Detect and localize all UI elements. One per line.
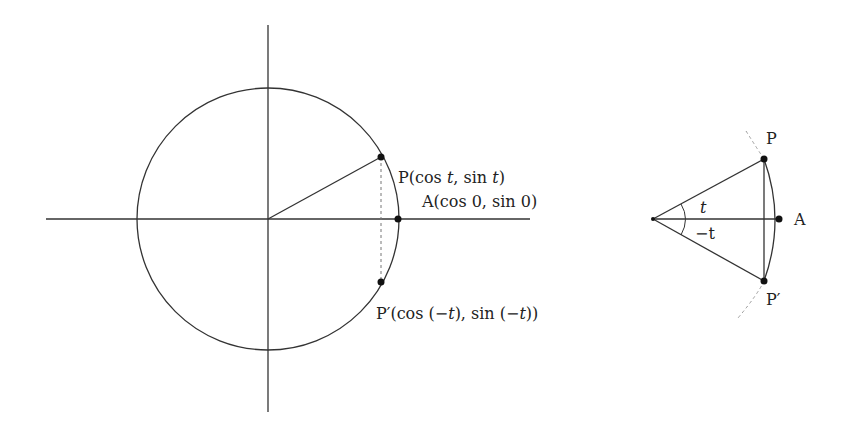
point-Pprime bbox=[378, 279, 385, 286]
point-P-right bbox=[761, 156, 768, 163]
arc-PAPprime bbox=[764, 159, 775, 281]
diagram-canvas: P(cos t, sin t) A(cos 0, sin 0) P′(cos (… bbox=[0, 0, 853, 428]
vertex-O bbox=[651, 217, 655, 221]
unit-circle-figure: P(cos t, sin t) A(cos 0, sin 0) P′(cos (… bbox=[46, 25, 538, 412]
point-Pprime-right bbox=[761, 278, 768, 285]
label-P-right: P bbox=[766, 129, 777, 148]
dashed-arc-top bbox=[746, 131, 764, 159]
point-A-right bbox=[776, 216, 783, 223]
radius-OP bbox=[268, 157, 381, 219]
point-A bbox=[395, 216, 402, 223]
point-P bbox=[378, 154, 385, 161]
label-A-right: A bbox=[793, 210, 806, 229]
dashed-arc-bottom bbox=[738, 281, 764, 318]
label-Pprime-right: P′ bbox=[766, 290, 781, 309]
label-A: A(cos 0, sin 0) bbox=[421, 192, 537, 211]
angle-label-minus-t: −t bbox=[695, 224, 715, 243]
label-Pprime: P′(cos (−t), sin (−t)) bbox=[376, 304, 538, 323]
label-P: P(cos t, sin t) bbox=[398, 168, 505, 187]
angle-label-t: t bbox=[700, 198, 707, 217]
segment-OP bbox=[653, 159, 764, 219]
sector-figure: P A P′ t −t bbox=[651, 129, 806, 318]
